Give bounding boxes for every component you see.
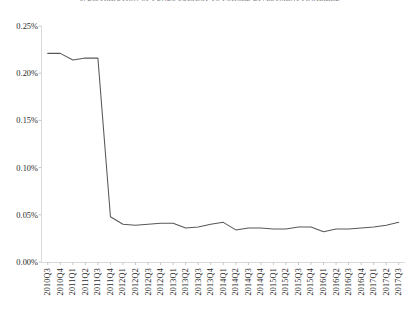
- x-axis-tick-label: 2011Q1: [68, 268, 77, 295]
- x-axis-tick-label: 2017Q1: [369, 268, 378, 296]
- x-axis-tick-label: 2013Q1: [169, 268, 178, 296]
- x-axis-tick-label: 2012Q2: [131, 268, 140, 296]
- x-axis-tick-label: 2011Q4: [106, 268, 115, 295]
- x-axis-tick-label: 2016Q3: [344, 268, 353, 296]
- x-axis-tick-label: 2014Q3: [244, 268, 253, 296]
- x-axis-tick-label: 2014Q4: [256, 268, 265, 296]
- plot-area: 0.25%0.20%0.15%0.10%0.05%0.00% 2010Q3201…: [0, 0, 420, 331]
- x-axis-tick-label: 2017Q2: [382, 268, 391, 296]
- x-axis-tick-label: 2010Q3: [43, 268, 52, 296]
- x-axis-tick-label: 2013Q3: [194, 268, 203, 296]
- x-axis-tick-label: 2015Q4: [306, 268, 315, 296]
- chart-figure: 5. DISTRIBUTION OF FUNDS SUBJECT TO FORC…: [0, 0, 420, 331]
- x-axis-tick-label: 2016Q2: [332, 268, 341, 296]
- x-axis-tick-label: 2015Q1: [269, 268, 278, 296]
- x-axis-tick-label: 2010Q4: [56, 268, 65, 296]
- x-axis-tick-label: 2013Q2: [181, 268, 190, 296]
- x-axis-tick-label: 2011Q3: [93, 268, 102, 295]
- x-axis-tick-label: 2013Q4: [206, 268, 215, 296]
- x-axis-tick-label: 2012Q4: [156, 268, 165, 296]
- x-axis-tick-label: 2016Q4: [357, 268, 366, 296]
- x-axis-tick-label: 2015Q3: [294, 268, 303, 296]
- x-axis-labels: 2010Q32010Q42011Q12011Q22011Q32011Q42012…: [0, 0, 420, 331]
- x-axis-tick-label: 2015Q2: [281, 268, 290, 296]
- x-axis-tick-label: 2016Q1: [319, 268, 328, 296]
- x-axis-tick-label: 2014Q1: [219, 268, 228, 296]
- x-axis-tick-label: 2012Q3: [144, 268, 153, 296]
- x-axis-tick-label: 2012Q1: [118, 268, 127, 296]
- x-axis-tick-label: 2017Q3: [394, 268, 403, 296]
- x-axis-tick-label: 2014Q2: [231, 268, 240, 296]
- x-axis-tick-label: 2011Q2: [81, 268, 90, 295]
